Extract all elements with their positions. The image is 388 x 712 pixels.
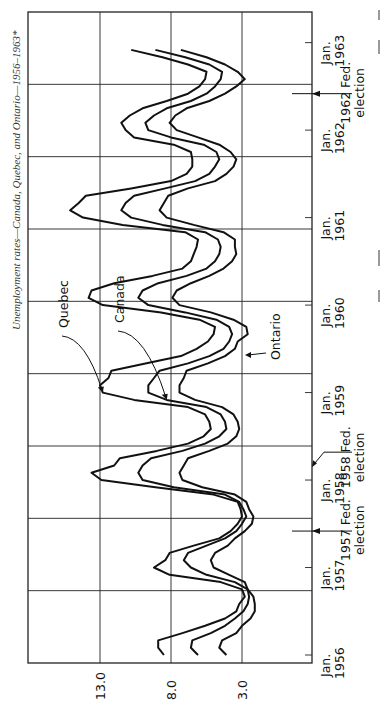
election-label: 1962 Fed.election xyxy=(338,62,367,124)
arrowhead-icon xyxy=(312,91,320,97)
unemployment-chart: Unemployment rates—Canada, Quebec, and O… xyxy=(0,0,388,712)
svg-text:Jan.: Jan. xyxy=(318,304,333,328)
svg-text:Jan.: Jan. xyxy=(318,654,333,678)
svg-text:1957 Fed.: 1957 Fed. xyxy=(338,499,353,561)
svg-text:1961: 1961 xyxy=(332,210,347,242)
election-label: 1957 Fed.election xyxy=(338,499,367,561)
value-tick-label: 13.0 xyxy=(93,672,108,700)
svg-text:Jan.: Jan. xyxy=(318,41,333,65)
svg-text:1959: 1959 xyxy=(332,385,347,417)
svg-text:Jan.: Jan. xyxy=(318,129,333,153)
election-label: 1958 Fed.election xyxy=(338,426,367,488)
svg-text:election: election xyxy=(352,505,367,555)
svg-text:election: election xyxy=(352,432,367,482)
svg-text:1962 Fed.: 1962 Fed. xyxy=(338,62,353,124)
time-tick-label: Jan.1956 xyxy=(318,647,347,679)
svg-text:1958 Fed.: 1958 Fed. xyxy=(338,426,353,488)
series-layer xyxy=(70,50,255,655)
svg-text:1960: 1960 xyxy=(332,297,347,329)
svg-text:Jan.: Jan. xyxy=(318,216,333,240)
arrowhead-icon xyxy=(98,387,104,393)
svg-text:1956: 1956 xyxy=(332,647,347,679)
series-label-quebec: Quebec xyxy=(56,280,71,328)
series-label-canada: Canada xyxy=(112,275,127,323)
value-tick-label: 3.0 xyxy=(235,680,250,700)
time-tick-label: Jan.1960 xyxy=(318,297,347,329)
arrowhead-icon xyxy=(312,528,320,534)
svg-text:election: election xyxy=(352,68,367,118)
svg-text:Jan.: Jan. xyxy=(318,391,333,415)
time-tick-label: Jan.1962 xyxy=(318,122,347,154)
svg-text:1957: 1957 xyxy=(332,560,347,592)
arrowhead-icon xyxy=(245,352,251,358)
time-tick-label: Jan.1961 xyxy=(318,210,347,242)
value-tick-label: 8.0 xyxy=(164,680,179,700)
footnote-fragment xyxy=(378,10,380,302)
time-tick-label: Jan.1959 xyxy=(318,385,347,417)
svg-text:Jan.: Jan. xyxy=(318,566,333,590)
series-label-ontario: Ontario xyxy=(268,313,283,360)
svg-text:1962: 1962 xyxy=(332,122,347,154)
label-leader xyxy=(62,336,102,390)
time-tick-label: Jan.1957 xyxy=(318,560,347,592)
chart-title: Unemployment rates—Canada, Quebec, and O… xyxy=(10,30,22,330)
series-line-quebec xyxy=(70,50,245,655)
svg-text:Jan.: Jan. xyxy=(318,479,333,503)
series-line-ontario xyxy=(160,50,255,655)
